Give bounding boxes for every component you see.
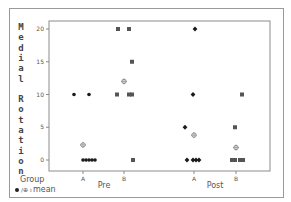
y-tick-label: 15 — [36, 58, 44, 65]
svg-text:a: a — [18, 125, 23, 135]
svg-text:e: e — [18, 32, 24, 42]
group-label: Group — [20, 175, 44, 184]
y-axis-label: MedialRotation — [18, 22, 24, 176]
data-point — [127, 27, 131, 31]
svg-text:i: i — [18, 146, 24, 156]
outer-category-label: Pre — [98, 181, 111, 190]
outer-category-label: Post — [207, 181, 224, 190]
legend-text: mean — [33, 185, 56, 194]
x-axis: ABABPrePost — [81, 171, 238, 190]
svg-text:o: o — [18, 156, 23, 166]
svg-text:d: d — [18, 43, 23, 53]
data-point — [87, 93, 91, 97]
data-point — [233, 125, 237, 129]
data-point — [185, 158, 190, 163]
data-point — [116, 27, 120, 31]
svg-text:t: t — [18, 135, 23, 145]
data-point — [193, 27, 198, 32]
svg-text:a: a — [18, 63, 23, 73]
svg-text:M: M — [18, 22, 24, 32]
svg-text:i: i — [18, 53, 24, 63]
y-axis: 05101520 — [36, 25, 49, 163]
data-point — [115, 93, 119, 97]
x-tick-label: A — [81, 175, 86, 182]
data-point — [93, 158, 97, 162]
data-point — [197, 158, 202, 163]
data-point — [72, 93, 76, 97]
x-tick-label: A — [192, 175, 197, 182]
data-point — [191, 92, 196, 97]
data-point — [241, 158, 245, 162]
scatter-chart: 05101520 ABABPrePost MedialRotation Grou… — [0, 0, 291, 202]
y-tick-label: 20 — [36, 25, 44, 32]
data-point — [183, 125, 188, 130]
data-point — [240, 93, 244, 97]
y-tick-label: 10 — [36, 91, 44, 98]
data-point — [130, 93, 134, 97]
svg-text:R: R — [18, 94, 24, 104]
legend-symbols: /⊕ ı — [21, 186, 32, 193]
plot-area — [49, 21, 270, 171]
x-tick-label: B — [234, 175, 238, 182]
legend-mean-icon — [15, 188, 19, 192]
svg-text:t: t — [18, 115, 23, 125]
svg-text:o: o — [18, 104, 23, 114]
y-tick-label: 5 — [40, 123, 44, 130]
svg-text:l: l — [18, 74, 23, 84]
x-tick-label: B — [122, 175, 126, 182]
y-tick-label: 0 — [40, 156, 44, 163]
data-point — [130, 60, 134, 64]
data-points — [72, 27, 245, 163]
data-point — [233, 158, 237, 162]
data-point — [131, 158, 135, 162]
legend: /⊕ ı mean — [15, 185, 56, 194]
